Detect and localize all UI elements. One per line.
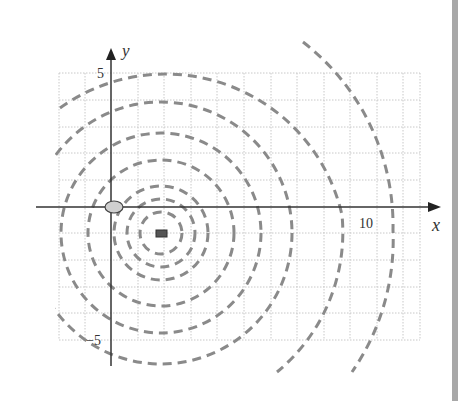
x-axis-arrow-icon [428,202,441,212]
point-source [156,230,167,237]
scrollbar[interactable] [452,0,458,401]
y-axis-label: y [120,41,130,60]
wave-diagram: y x 10 5 −5 [0,0,467,401]
object-at-origin [105,201,123,213]
y-tick-5: 5 [97,66,104,81]
x-axis-label: x [431,215,440,235]
x-tick-10: 10 [359,216,373,231]
wavefront-7 [60,74,343,372]
y-axis-arrow-icon [106,48,116,60]
y-tick-neg5: −5 [86,333,101,348]
